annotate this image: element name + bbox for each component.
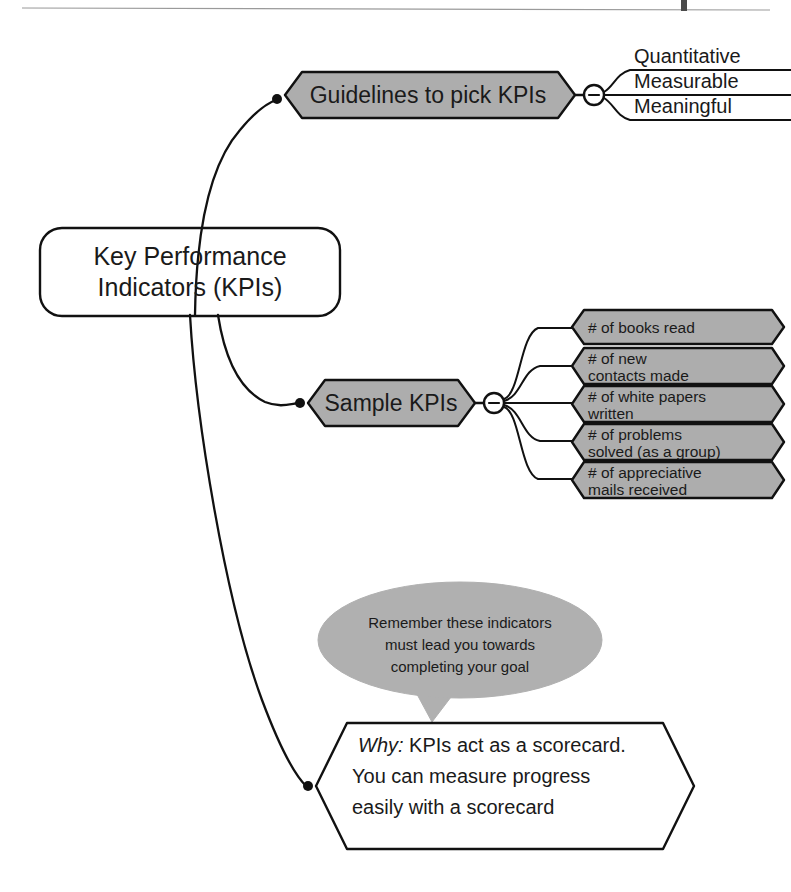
guidelines-child-2[interactable]: Measurable	[634, 70, 739, 92]
branch-sample-kpis[interactable]: Sample KPIs	[308, 380, 475, 426]
guidelines-child-2-label: Measurable	[634, 70, 739, 92]
branch-why-line3: easily with a scorecard	[352, 796, 554, 818]
sample-kpi-item-2-line1: # of new	[588, 350, 647, 367]
branch-sample-kpis-label: Sample KPIs	[325, 390, 458, 416]
branch-guidelines-label: Guidelines to pick KPIs	[310, 82, 547, 108]
branch-why-prefix: Why:	[358, 734, 404, 756]
sample-kpi-item-1[interactable]: # of books read	[572, 310, 784, 344]
root-node[interactable]: Key Performance Indicators (KPIs)	[40, 228, 340, 316]
sample-kpi-item-2-line2: contacts made	[588, 367, 689, 384]
sample-kpi-item-5-line2: mails received	[588, 481, 687, 498]
branch-why-rest: KPIs act as a scorecard.	[404, 734, 626, 756]
sample-kpi-item-5-line1: # of appreciative	[588, 464, 702, 481]
guidelines-child-1-label: Quantitative	[634, 45, 741, 67]
guidelines-child-3[interactable]: Meaningful	[634, 95, 732, 117]
root-node-line1: Key Performance	[93, 242, 286, 270]
callout-bubble-line1: Remember these indicators	[368, 614, 551, 631]
sample-kpi-item-3[interactable]: # of white papers written	[572, 386, 784, 422]
sample-kpi-item-4[interactable]: # of problems solved (as a group)	[572, 424, 784, 460]
callout-bubble: Remember these indicators must lead you …	[318, 582, 602, 722]
callout-bubble-line2: must lead you towards	[385, 636, 535, 653]
connector-root-to-sample-kpis	[218, 315, 299, 405]
sample-kpi-item-4-line1: # of problems	[588, 426, 682, 443]
guidelines-child-1[interactable]: Quantitative	[634, 45, 741, 67]
connector-sample-child-5	[504, 407, 572, 479]
branch-why[interactable]: Why: KPIs act as a scorecard. You can me…	[316, 723, 694, 849]
guidelines-child-3-label: Meaningful	[634, 95, 732, 117]
branch-why-line1: Why: KPIs act as a scorecard.	[358, 734, 626, 756]
connector-sample-child-1	[504, 328, 572, 399]
collapse-minus-icon-guidelines[interactable]	[584, 85, 604, 105]
sample-kpi-item-3-line1: # of white papers	[588, 388, 706, 405]
sample-kpi-item-4-line2: solved (as a group)	[588, 443, 721, 460]
page-header-tick	[681, 0, 687, 11]
bullet-why	[303, 781, 313, 791]
bullet-sample-kpis	[295, 398, 305, 408]
page-header-rule	[22, 8, 770, 10]
root-node-line2: Indicators (KPIs)	[98, 273, 283, 301]
mind-map-canvas: Key Performance Indicators (KPIs) Guidel…	[0, 0, 791, 892]
sample-kpi-item-3-line2: written	[587, 405, 634, 422]
connector-root-to-why	[190, 315, 306, 786]
sample-kpi-item-1-line1: # of books read	[588, 319, 695, 336]
bullet-guidelines	[272, 94, 282, 104]
sample-kpi-item-2[interactable]: # of new contacts made	[572, 348, 784, 384]
branch-why-line2: You can measure progress	[352, 765, 590, 787]
callout-bubble-line3: completing your goal	[391, 658, 529, 675]
collapse-minus-icon-sample-kpis[interactable]	[484, 393, 504, 413]
sample-kpi-item-5[interactable]: # of appreciative mails received	[572, 462, 784, 498]
branch-guidelines[interactable]: Guidelines to pick KPIs	[285, 72, 575, 118]
